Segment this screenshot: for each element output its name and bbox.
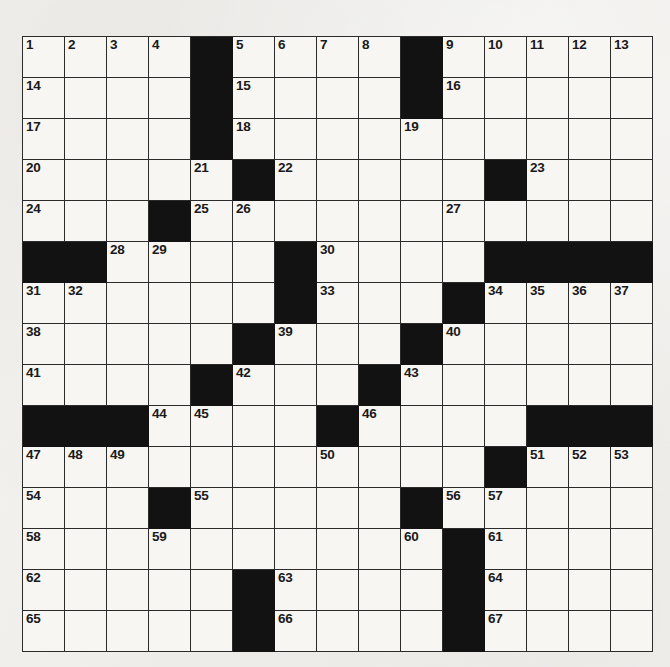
grid-cell[interactable] — [65, 529, 107, 570]
grid-cell[interactable] — [149, 611, 191, 652]
grid-cell[interactable] — [443, 160, 485, 201]
grid-cell[interactable] — [569, 365, 611, 406]
grid-cell[interactable] — [317, 570, 359, 611]
grid-cell[interactable] — [527, 488, 569, 529]
grid-cell[interactable]: 45 — [191, 406, 233, 447]
grid-cell[interactable] — [233, 283, 275, 324]
grid-cell[interactable]: 51 — [527, 447, 569, 488]
grid-cell[interactable] — [569, 488, 611, 529]
grid-cell[interactable] — [149, 570, 191, 611]
grid-cell[interactable] — [485, 365, 527, 406]
grid-cell[interactable]: 60 — [401, 529, 443, 570]
grid-cell[interactable]: 23 — [527, 160, 569, 201]
grid-cell[interactable] — [569, 570, 611, 611]
grid-cell[interactable] — [317, 78, 359, 119]
grid-cell[interactable] — [359, 201, 401, 242]
grid-cell[interactable]: 47 — [23, 447, 65, 488]
grid-cell[interactable]: 63 — [275, 570, 317, 611]
grid-cell[interactable]: 16 — [443, 78, 485, 119]
grid-cell[interactable]: 49 — [107, 447, 149, 488]
grid-cell[interactable]: 13 — [611, 37, 653, 78]
grid-cell[interactable] — [611, 570, 653, 611]
grid-cell[interactable]: 65 — [23, 611, 65, 652]
grid-cell[interactable]: 20 — [23, 160, 65, 201]
grid-cell[interactable]: 27 — [443, 201, 485, 242]
grid-cell[interactable]: 12 — [569, 37, 611, 78]
grid-cell[interactable] — [359, 119, 401, 160]
grid-cell[interactable]: 31 — [23, 283, 65, 324]
grid-cell[interactable] — [527, 324, 569, 365]
grid-cell[interactable]: 9 — [443, 37, 485, 78]
grid-cell[interactable] — [611, 78, 653, 119]
grid-cell[interactable] — [401, 242, 443, 283]
grid-cell[interactable] — [569, 78, 611, 119]
grid-cell[interactable]: 4 — [149, 37, 191, 78]
grid-cell[interactable] — [611, 365, 653, 406]
grid-cell[interactable]: 64 — [485, 570, 527, 611]
grid-cell[interactable] — [443, 242, 485, 283]
grid-cell[interactable] — [107, 160, 149, 201]
grid-cell[interactable]: 61 — [485, 529, 527, 570]
grid-cell[interactable] — [359, 242, 401, 283]
grid-cell[interactable] — [107, 529, 149, 570]
grid-cell[interactable]: 33 — [317, 283, 359, 324]
grid-cell[interactable] — [107, 201, 149, 242]
grid-cell[interactable] — [65, 611, 107, 652]
grid-cell[interactable] — [65, 488, 107, 529]
grid-cell[interactable]: 2 — [65, 37, 107, 78]
grid-cell[interactable] — [569, 160, 611, 201]
grid-cell[interactable]: 40 — [443, 324, 485, 365]
grid-cell[interactable] — [317, 529, 359, 570]
grid-cell[interactable] — [65, 324, 107, 365]
grid-cell[interactable] — [401, 283, 443, 324]
grid-cell[interactable]: 56 — [443, 488, 485, 529]
grid-cell[interactable] — [485, 324, 527, 365]
grid-cell[interactable] — [401, 570, 443, 611]
grid-cell[interactable] — [65, 365, 107, 406]
grid-cell[interactable] — [485, 201, 527, 242]
grid-cell[interactable] — [527, 570, 569, 611]
grid-cell[interactable] — [611, 529, 653, 570]
grid-cell[interactable]: 28 — [107, 242, 149, 283]
grid-cell[interactable] — [611, 324, 653, 365]
grid-cell[interactable]: 15 — [233, 78, 275, 119]
grid-cell[interactable] — [401, 447, 443, 488]
grid-cell[interactable]: 34 — [485, 283, 527, 324]
grid-cell[interactable] — [107, 570, 149, 611]
grid-cell[interactable]: 1 — [23, 37, 65, 78]
grid-cell[interactable] — [191, 283, 233, 324]
grid-cell[interactable] — [107, 283, 149, 324]
grid-cell[interactable]: 41 — [23, 365, 65, 406]
grid-cell[interactable] — [317, 201, 359, 242]
grid-cell[interactable] — [317, 160, 359, 201]
grid-cell[interactable]: 39 — [275, 324, 317, 365]
grid-cell[interactable] — [443, 119, 485, 160]
grid-cell[interactable] — [569, 119, 611, 160]
grid-cell[interactable] — [611, 160, 653, 201]
grid-cell[interactable] — [107, 488, 149, 529]
grid-cell[interactable] — [233, 529, 275, 570]
grid-cell[interactable] — [401, 201, 443, 242]
grid-cell[interactable] — [65, 119, 107, 160]
grid-cell[interactable]: 58 — [23, 529, 65, 570]
grid-cell[interactable] — [233, 447, 275, 488]
grid-cell[interactable]: 8 — [359, 37, 401, 78]
grid-cell[interactable] — [569, 529, 611, 570]
grid-cell[interactable] — [149, 283, 191, 324]
grid-cell[interactable] — [611, 488, 653, 529]
grid-cell[interactable] — [569, 201, 611, 242]
grid-cell[interactable] — [317, 365, 359, 406]
grid-cell[interactable]: 18 — [233, 119, 275, 160]
grid-cell[interactable] — [149, 447, 191, 488]
grid-cell[interactable]: 30 — [317, 242, 359, 283]
grid-cell[interactable] — [485, 78, 527, 119]
grid-cell[interactable] — [233, 406, 275, 447]
grid-cell[interactable]: 10 — [485, 37, 527, 78]
grid-cell[interactable] — [107, 365, 149, 406]
grid-cell[interactable]: 42 — [233, 365, 275, 406]
grid-cell[interactable] — [527, 201, 569, 242]
grid-cell[interactable] — [107, 324, 149, 365]
grid-cell[interactable]: 48 — [65, 447, 107, 488]
grid-cell[interactable] — [611, 119, 653, 160]
grid-cell[interactable]: 53 — [611, 447, 653, 488]
